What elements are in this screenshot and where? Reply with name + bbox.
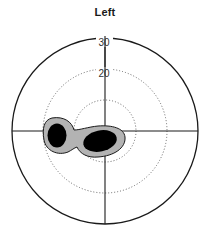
ring-label-20: 20	[98, 68, 110, 79]
scotoma-dense-core-left	[48, 124, 67, 148]
ring-label-30: 30	[98, 37, 110, 48]
visual-field-plot: 30 20	[0, 0, 210, 237]
